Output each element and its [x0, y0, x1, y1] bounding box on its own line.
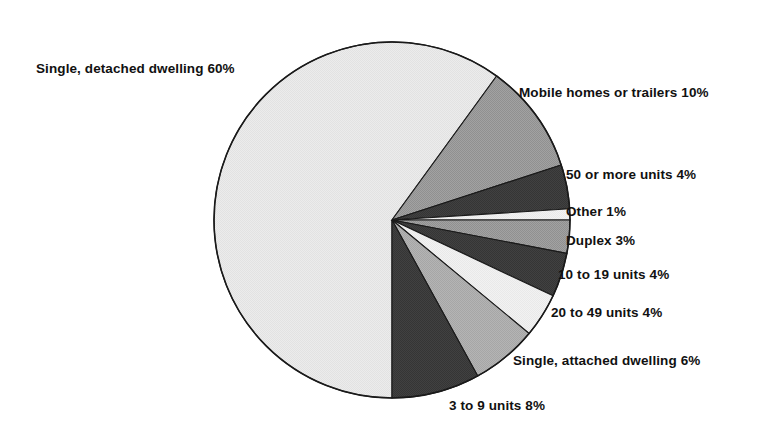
pie-label-mobile-homes-or-trailers: Mobile homes or trailers 10% [519, 86, 709, 100]
pie-label-20-to-49-units: 20 to 49 units 4% [551, 306, 662, 320]
pie-label-50-or-more-units: 50 or more units 4% [566, 168, 696, 182]
pie-label-3-to-9-units: 3 to 9 units 8% [449, 399, 545, 413]
pie-label-single-detached-dwelling: Single, detached dwelling 60% [36, 62, 235, 76]
pie-label-other: Other 1% [566, 205, 626, 219]
pie-label-single-attached-dwelling: Single, attached dwelling 6% [513, 354, 700, 368]
pie-slices-group [214, 42, 570, 398]
pie-label-duplex: Duplex 3% [566, 234, 635, 248]
pie-label-10-to-19-units: 10 to 19 units 4% [558, 268, 669, 282]
pie-chart: Single, detached dwelling 60%Mobile home… [0, 0, 782, 438]
